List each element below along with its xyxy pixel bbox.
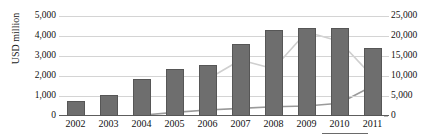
right-axis-ticks: 05,00010,00015,00020,00025,000 [389,0,433,138]
right-tick-label: 20,000 [391,31,417,41]
x-axis-tick-label: 2003 [92,118,125,129]
x-axis-tick-label: 2006 [191,118,224,129]
x-axis-tick-label: 2008 [257,118,290,129]
bar [199,65,217,116]
x-axis-tick-label: 2010 [323,118,356,129]
bar [166,69,184,116]
legend-rule [322,133,368,134]
right-tick-mark [384,116,388,117]
x-axis-tick-label: 2002 [59,118,92,129]
bar [331,28,349,116]
right-tick-label: 0 [391,111,396,121]
bar [67,101,85,116]
left-tick-label: 5,000 [35,11,56,21]
x-axis-tick-label: 2011 [356,118,389,129]
bar [232,44,250,116]
gridline [59,16,389,17]
left-tick-label: 0 [51,111,56,121]
left-tick-label: 1,000 [35,91,56,101]
right-tick-label: 5,000 [391,91,412,101]
plot-area [59,16,389,116]
chart-container: USD million 01,0002,0003,0004,0005,000 0… [0,0,433,138]
bar [298,28,316,116]
right-tick-label: 25,000 [391,11,417,21]
bar [364,48,382,116]
right-tick-label: 15,000 [391,51,417,61]
x-axis-tick-label: 2007 [224,118,257,129]
left-tick-label: 2,000 [35,71,56,81]
left-axis-ticks: 01,0002,0003,0004,0005,000 [16,0,58,138]
x-axis-labels: 2002200320042005200620072008200920102011 [59,118,389,134]
bar [100,95,118,116]
x-axis-tick-label: 2004 [125,118,158,129]
left-tick-label: 3,000 [35,51,56,61]
left-tick-label: 4,000 [35,31,56,41]
x-axis-tick-label: 2009 [290,118,323,129]
x-axis-tick-label: 2005 [158,118,191,129]
bar [265,30,283,116]
bar [133,79,151,116]
right-tick-label: 10,000 [391,71,417,81]
